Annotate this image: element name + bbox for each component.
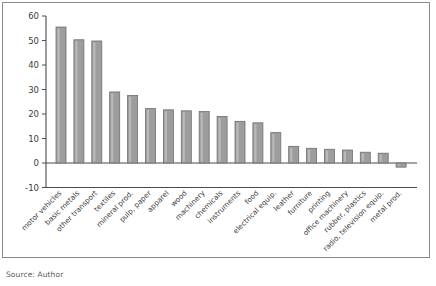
y-tick-label: 50 (28, 36, 39, 46)
bar-highlight (308, 150, 310, 162)
chart-figure: -100102030405060 motor vehiclesbasic met… (0, 0, 436, 286)
y-tick-label: 40 (28, 60, 39, 70)
bar-highlight (183, 112, 185, 161)
bar-highlight (147, 110, 149, 162)
source-note: Source: Author (6, 270, 63, 279)
bar-highlight (219, 118, 221, 162)
bar-highlight (272, 134, 274, 162)
y-tick-label: 0 (34, 158, 39, 168)
bar-series (56, 27, 406, 167)
bar-highlight (290, 148, 292, 162)
bar-highlight (398, 164, 400, 165)
y-tick-label: 20 (28, 109, 39, 119)
bar-chart-plot: -100102030405060 motor vehiclesbasic met… (3, 3, 431, 259)
bar-highlight (165, 111, 167, 161)
bar-highlight (380, 155, 382, 162)
bar-highlight (344, 151, 346, 161)
bar-highlight (362, 154, 364, 162)
y-tick-label: 10 (28, 134, 39, 144)
bar-highlight (75, 41, 77, 161)
bar-highlight (111, 93, 113, 161)
bar-highlight (254, 124, 256, 161)
bar-highlight (236, 123, 238, 162)
bar-highlight (201, 113, 203, 162)
y-tick-label: 30 (28, 85, 39, 95)
y-tick-label: 60 (28, 11, 39, 21)
bar-highlight (129, 97, 131, 162)
chart-frame: -100102030405060 motor vehiclesbasic met… (2, 2, 430, 258)
bar-highlight (326, 151, 328, 162)
bar-highlight (57, 28, 59, 161)
bar-highlight (93, 42, 95, 161)
x-axis-category-labels: motor vehiclesbasic metalsother transpor… (19, 188, 403, 253)
y-tick-label: -10 (25, 183, 39, 193)
y-axis-ticks: -100102030405060 (25, 11, 46, 193)
